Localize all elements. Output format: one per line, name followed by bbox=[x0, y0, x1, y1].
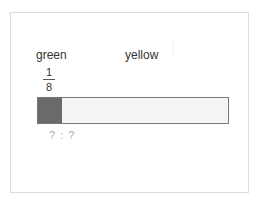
fraction-bar bbox=[43, 79, 55, 80]
fraction-numerator: 1 bbox=[43, 66, 55, 78]
tape-diagram bbox=[37, 97, 229, 124]
fraction-denominator: 8 bbox=[43, 81, 55, 93]
tape-segment-empty[interactable] bbox=[62, 98, 228, 123]
fraction: 1 8 bbox=[43, 66, 55, 93]
label-yellow: yellow bbox=[125, 48, 158, 62]
tape-segment-filled[interactable] bbox=[38, 98, 62, 123]
divider bbox=[173, 40, 174, 58]
label-green: green bbox=[36, 48, 67, 62]
ratio-text: ? : ? bbox=[49, 129, 75, 141]
